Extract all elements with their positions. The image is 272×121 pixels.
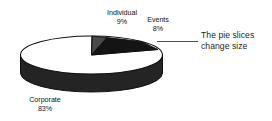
data-label-corporate-name: Corporate <box>29 95 61 104</box>
data-label-events-name: Events <box>147 15 169 24</box>
pie-chart-figure: Individual 9% Events 8% Corporate 83% Th… <box>0 0 272 121</box>
slice-divider-individual <box>92 36 93 55</box>
data-label-events-percent: 8% <box>139 25 177 34</box>
data-label-individual: Individual 9% <box>101 9 143 26</box>
data-label-individual-percent: 9% <box>101 18 143 27</box>
callout-annotation: The pie slices change size <box>201 30 271 52</box>
data-label-individual-name: Individual <box>107 8 137 17</box>
callout-line-2: change size <box>201 41 271 52</box>
callout-line-1: The pie slices <box>201 30 271 41</box>
data-label-events: Events 8% <box>139 16 177 33</box>
data-label-corporate: Corporate 83% <box>15 96 75 113</box>
data-label-corporate-percent: 83% <box>15 105 75 114</box>
